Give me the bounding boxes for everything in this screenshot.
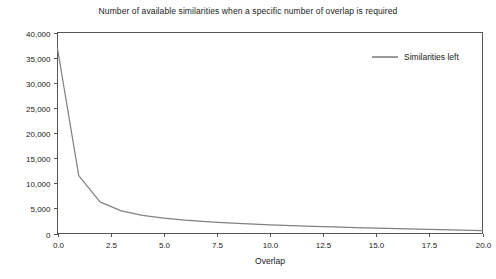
legend-label-similarities-left: Similarities left xyxy=(404,52,459,62)
y-tick-label: 35,000 xyxy=(26,55,51,64)
y-tick-label: 5,000 xyxy=(30,205,51,214)
x-tick-label: 20.0 xyxy=(476,241,492,250)
y-tick-label: 30,000 xyxy=(26,80,51,89)
y-axis-tick-labels: 05,00010,00015,00020,00025,00030,00035,0… xyxy=(26,30,51,240)
x-axis-tick-labels: 0.02.55.07.510.012.515.017.520.0 xyxy=(53,241,492,250)
chart-figure: Number of available similarities when a … xyxy=(0,0,496,279)
axis-spines xyxy=(58,33,483,234)
y-tick-label: 25,000 xyxy=(26,105,51,114)
x-tick-label: 15.0 xyxy=(369,241,385,250)
x-tick-label: 7.5 xyxy=(212,241,224,250)
chart-legend: Similarities left xyxy=(372,52,459,62)
chart-plot-area: 0.02.55.07.510.012.515.017.520.0 05,0001… xyxy=(0,0,496,279)
x-tick-label: 2.5 xyxy=(106,241,118,250)
y-tick-label: 20,000 xyxy=(26,130,51,139)
y-tick-label: 0 xyxy=(46,231,51,240)
series-line-similarities-left xyxy=(58,49,483,231)
x-tick-label: 12.5 xyxy=(316,241,332,250)
y-tick-label: 15,000 xyxy=(26,155,51,164)
x-tick-label: 0.0 xyxy=(53,241,65,250)
y-axis-ticks xyxy=(54,34,58,235)
x-tick-label: 10.0 xyxy=(263,241,279,250)
y-tick-label: 10,000 xyxy=(26,180,51,189)
y-tick-label: 40,000 xyxy=(26,30,51,39)
x-axis-ticks xyxy=(59,234,484,238)
x-tick-label: 17.5 xyxy=(422,241,438,250)
x-tick-label: 5.0 xyxy=(159,241,171,250)
data-series-group xyxy=(58,49,483,231)
x-axis-title: Overlap xyxy=(255,256,285,266)
